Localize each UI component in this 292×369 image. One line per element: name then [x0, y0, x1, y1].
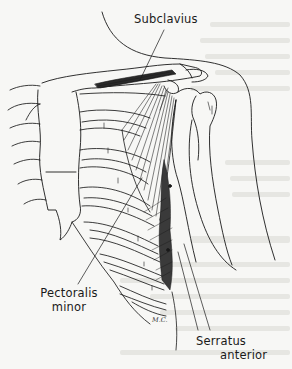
- shoulder-outline: [102, 12, 275, 260]
- pectoralis-minor-leader-line: [78, 178, 142, 284]
- serratus-anterior-label-line1: Serratus: [196, 334, 267, 348]
- clavicle: [42, 64, 202, 92]
- pectoralis-minor-label: Pectoralis minor: [34, 286, 104, 314]
- pectoralis-minor-label-line1: Pectoralis: [34, 286, 104, 300]
- pectoralis-minor-label-line2: minor: [34, 300, 104, 314]
- artist-signature: M.C.: [152, 316, 168, 324]
- subclavius-muscle: [95, 70, 176, 88]
- serratus-anterior-leader-line-2: [184, 244, 210, 330]
- subclavius-label: Subclavius: [134, 12, 198, 26]
- acromion: [186, 69, 208, 82]
- sternum: [38, 90, 81, 240]
- serratus-anterior-label: Serratus anterior: [196, 334, 267, 362]
- scapula-border: [172, 100, 196, 262]
- serratus-anterior-label-line2: anterior: [196, 348, 267, 362]
- figure-page: Subclavius Pectoralis minor Serratus ant…: [0, 0, 292, 369]
- serratus-anterior-leader-line-1: [178, 252, 198, 330]
- humerus: [178, 88, 232, 265]
